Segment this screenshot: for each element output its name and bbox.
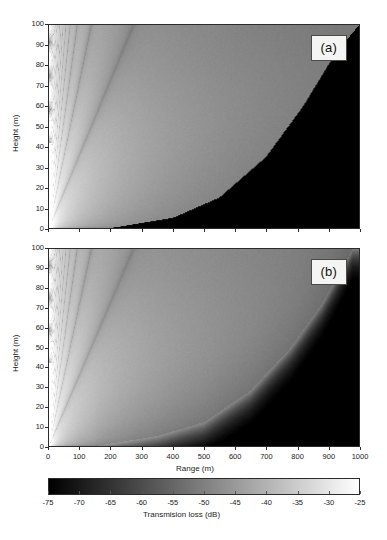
colorbar-tick-label: -30 [323,499,334,507]
panel-b-xtick-label: 800 [291,453,304,461]
panel-b-xtick-label: 200 [104,453,117,461]
colorbar-tick-mark [360,491,361,494]
panel-b-ytick-mark [45,308,48,309]
panel-a-ytick-label: 80 [18,61,44,69]
panel-a-xtick-mark [266,229,267,232]
panel-b-ytick-mark [45,387,48,388]
panel-b-ytick-mark [45,328,48,329]
panel-b-ytick-label: 30 [18,384,44,392]
panel-b-xtick-mark [235,447,236,450]
colorbar-tick-mark [235,491,236,494]
panel-b-ytick-mark [45,248,48,249]
panel-a-ytick-mark [45,86,48,87]
colorbar-tick-mark [266,491,267,494]
panel-a-xtick-mark [142,229,143,232]
panel-a-ytick-label: 60 [18,102,44,110]
panel-a-ytick-mark [45,168,48,169]
panel-a-ytick-mark [45,45,48,46]
panel-b-xtick-label: 400 [167,453,180,461]
colorbar-tick-mark [329,491,330,494]
colorbar-tick-label: -35 [292,499,303,507]
panel-b-xtick-mark [110,447,111,450]
panel-a-xtick-mark [204,229,205,232]
panel-b-ytick-label: 80 [18,284,44,292]
panel-a-ytick-label: 100 [18,20,44,28]
colorbar-tick-mark [298,491,299,494]
panel-b-ytick-label: 10 [18,423,44,431]
panel-a-ytick-mark [45,127,48,128]
panel-b-xtick-label: 1000 [352,453,369,461]
panel-b-xtick-label: 100 [73,453,86,461]
colorbar-tick-label: -70 [74,499,85,507]
panel-a-ytick-label: 20 [18,184,44,192]
colorbar-tick-mark [204,491,205,494]
panel-b-ytick-mark [45,348,48,349]
colorbar-tick-label: -75 [43,499,54,507]
panel-b: (b) [48,248,360,447]
panel-a-tag: (a) [311,35,348,61]
panel-b-xtick-mark [329,447,330,450]
panel-a-ytick-mark [45,106,48,107]
panel-a: (a) [48,24,360,229]
panel-b-ytick-label: 40 [18,364,44,372]
colorbar-tick-mark [48,491,49,494]
panel-a-ytick-mark [45,209,48,210]
panel-b-ytick-label: 0 [18,443,44,451]
panel-a-ytick-label: 10 [18,205,44,213]
panel-b-ytick-label: 60 [18,324,44,332]
panel-a-ytick-label: 50 [18,123,44,131]
colorbar-tick-mark [142,491,143,494]
panel-a-xtick-mark [48,229,49,232]
panel-b-xtick-mark [266,447,267,450]
panel-a-ylabel: Height (m) [12,115,20,152]
panel-a-ytick-mark [45,188,48,189]
colorbar-tick-label: -50 [199,499,210,507]
panel-b-xtick-mark [79,447,80,450]
panel-b-xtick-mark [360,447,361,450]
panel-b-xtick-label: 0 [46,453,50,461]
panel-b-ytick-label: 70 [18,304,44,312]
panel-b-xtick-mark [142,447,143,450]
colorbar-tick-mark [110,491,111,494]
panel-b-tag: (b) [311,259,348,285]
panel-b-ytick-mark [45,367,48,368]
panel-a-ytick-mark [45,147,48,148]
figure-canvas: (a) 0102030405060708090100 Height (m) (b… [0,0,387,540]
panel-b-xtick-mark [173,447,174,450]
colorbar-tick-label: -25 [355,499,366,507]
colorbar-tick-label: -55 [167,499,178,507]
panel-a-xtick-mark [235,229,236,232]
panel-a-ytick-label: 30 [18,164,44,172]
panel-b-xtick-mark [204,447,205,450]
panel-b-ytick-mark [45,288,48,289]
panel-b-xtick-mark [298,447,299,450]
panel-a-xtick-mark [298,229,299,232]
panel-b-ytick-mark [45,268,48,269]
panel-a-xtick-mark [329,229,330,232]
panel-a-ytick-label: 90 [18,41,44,49]
panel-b-xtick-label: 600 [229,453,242,461]
panel-a-ytick-label: 70 [18,82,44,90]
panel-b-ytick-mark [45,427,48,428]
panel-b-ytick-mark [45,407,48,408]
panel-a-ytick-label: 40 [18,143,44,151]
colorbar-label: Transmision loss (dB) [143,511,220,519]
colorbar-tick-label: -60 [136,499,147,507]
colorbar-tick-mark [173,491,174,494]
panel-a-xtick-mark [79,229,80,232]
panel-b-xtick-label: 500 [198,453,211,461]
panel-b-xtick-label: 700 [260,453,273,461]
panel-b-ytick-label: 100 [18,244,44,252]
panel-b-ytick-label: 50 [18,344,44,352]
panel-b-xlabel: Range (m) [176,465,214,473]
panel-a-xtick-mark [360,229,361,232]
panel-a-xtick-mark [110,229,111,232]
panel-b-ytick-label: 90 [18,264,44,272]
panel-b-xtick-label: 300 [135,453,148,461]
panel-b-xtick-mark [48,447,49,450]
panel-a-xtick-mark [173,229,174,232]
panel-a-ytick-mark [45,65,48,66]
panel-b-ylabel: Height (m) [12,335,20,372]
colorbar-tick-mark [79,491,80,494]
colorbar-tick-label: -40 [261,499,272,507]
